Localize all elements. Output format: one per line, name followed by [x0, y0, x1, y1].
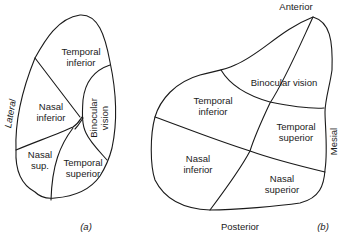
label-line: Temporal — [58, 157, 108, 168]
figure-a-divider-2b — [75, 118, 83, 129]
figure-a-label-binocular-vision: Binocular vision — [88, 93, 110, 143]
label-line: superior — [58, 168, 108, 179]
figure-b-label-nasal-superior: Nasal superior — [254, 173, 310, 195]
figure-b-label-nasal-inferior: Nasal inferior — [172, 153, 224, 175]
figure-b-label-temporal-superior: Temporal superior — [268, 121, 324, 143]
label-line: Temporal — [50, 46, 112, 57]
label-line: Temporal — [268, 121, 324, 132]
figure-b-label-temporal-inferior: Temporal inferior — [185, 95, 241, 117]
figure-b-side-label-mesial: Mesial — [328, 122, 339, 162]
figure-a-label-temporal-inferior: Temporal inferior — [50, 46, 112, 68]
figure-a-label-nasal-inferior: Nasal inferior — [26, 101, 76, 123]
label-line: Nasal — [254, 173, 310, 184]
figure-b-label-binocular-vision: Binocular vision — [244, 77, 324, 88]
figure-b-top-label-anterior: Anterior — [266, 1, 326, 12]
label-line: inferior — [50, 57, 112, 68]
label-line: sup. — [22, 160, 58, 171]
label-line: superior — [268, 132, 324, 143]
figure-a-label-temporal-superior: Temporal superior — [58, 157, 108, 179]
figure-b-bottom-label-posterior: Posterior — [210, 221, 270, 232]
label-line: Nasal — [26, 101, 76, 112]
label-line: Nasal — [22, 149, 58, 160]
label-line: superior — [254, 184, 310, 195]
label-line: inferior — [26, 112, 76, 123]
label-line: Nasal — [172, 153, 224, 164]
figure-a-label-nasal-sup: Nasal sup. — [22, 149, 58, 171]
label-line: inferior — [185, 106, 241, 117]
label-line: inferior — [172, 164, 224, 175]
figure-a-caption: (a) — [74, 221, 98, 232]
label-line: vision — [99, 93, 110, 143]
label-line: Binocular — [88, 93, 99, 143]
label-line: Temporal — [185, 95, 241, 106]
figure-b-caption: (b) — [311, 221, 335, 232]
